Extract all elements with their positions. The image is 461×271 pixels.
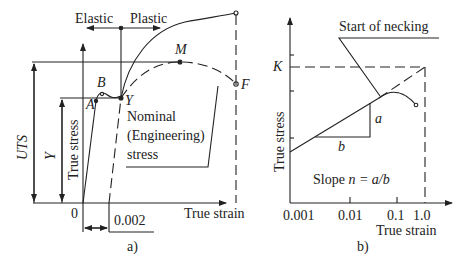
point-a-label: A [86, 98, 95, 112]
b-label: b [338, 140, 345, 154]
x-tick-0.01: 0.01 [338, 209, 363, 223]
point-b-label: B [97, 76, 106, 90]
x-tick-0.001: 0.001 [283, 209, 315, 223]
a-x-axis-label: True strain [184, 207, 245, 221]
uts-label: UTS [16, 135, 30, 160]
x-tick-0.1: 0.1 [387, 209, 405, 223]
point-m-label: M [175, 43, 187, 57]
plastic-label: Plastic [130, 12, 167, 26]
point-f-label: F [241, 78, 250, 92]
yield-label: Y [44, 152, 58, 160]
panel-b-caption: b) [357, 240, 369, 254]
necking-label: Start of necking [339, 20, 428, 34]
elastic-label: Elastic [75, 12, 113, 26]
panel-a-caption: a) [127, 240, 138, 254]
nominal-label-line3: stress [127, 148, 158, 162]
slope-label: Slope n = a/b [313, 173, 390, 187]
nominal-label-line1: Nominal [127, 110, 176, 124]
a-label: a [375, 112, 382, 126]
origin-label: 0 [71, 207, 78, 221]
slope-formula: n = a/b [348, 172, 389, 187]
b-x-axis-label: True strain [376, 224, 437, 238]
point-y-label: Y [125, 94, 133, 108]
a-y-axis-label: True stress [67, 119, 81, 180]
b-y-axis-label: True stress [273, 111, 287, 172]
x-tick-1.0: 1.0 [413, 209, 431, 223]
nominal-label-line2: (Engineering) [127, 129, 205, 143]
k-label: K [273, 60, 282, 74]
slope-prefix: Slope [313, 172, 348, 187]
offset-label: 0.002 [114, 214, 146, 228]
